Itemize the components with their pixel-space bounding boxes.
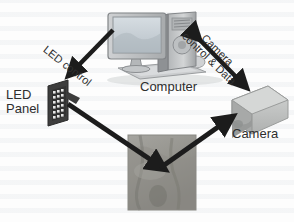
- led-panel-label-line1: LED: [6, 88, 39, 102]
- computer-label: Computer: [140, 80, 197, 94]
- figure-canvas: Computer Camera LED Panel LED control Ca…: [0, 0, 294, 222]
- tissue-photo-icon: [128, 135, 196, 210]
- led-panel-label-line2: Panel: [6, 102, 39, 116]
- led-panel-icon: [48, 80, 80, 126]
- diagram-graphics: [0, 0, 294, 222]
- camera-label: Camera: [232, 127, 278, 141]
- led-panel-label: LED Panel: [6, 88, 39, 116]
